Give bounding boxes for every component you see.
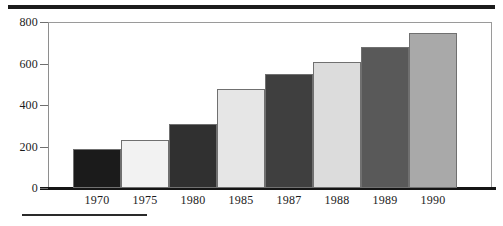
x-axis-tick-label: 1989 <box>361 194 409 206</box>
x-axis-tick-label: 1990 <box>409 194 457 206</box>
y-axis-tick <box>40 147 48 148</box>
bottom-divider-rule <box>22 214 147 216</box>
y-axis-tick <box>40 188 48 189</box>
x-axis-tick-label: 1985 <box>217 194 265 206</box>
x-axis-tick-label: 1980 <box>169 194 217 206</box>
x-axis-tick-label: 1988 <box>313 194 361 206</box>
y-axis-tick-label: 200 <box>0 141 38 153</box>
bar-1985 <box>217 89 265 188</box>
bar-1990 <box>409 33 457 188</box>
y-axis-tick-label: 800 <box>0 16 38 28</box>
bar-1987 <box>265 74 313 188</box>
bar-1989 <box>361 47 409 188</box>
y-axis-tick-label: 400 <box>0 99 38 111</box>
x-axis-tick-label: 1970 <box>73 194 121 206</box>
chart-figure: 0200400600800 19701975198019851987198819… <box>0 0 503 226</box>
bar-1980 <box>169 124 217 188</box>
y-axis-tick-label: 0 <box>0 182 38 194</box>
x-axis-tick-label: 1987 <box>265 194 313 206</box>
y-axis-tick <box>40 64 48 65</box>
bar-1988 <box>313 62 361 188</box>
top-divider-rule <box>8 5 495 9</box>
y-axis-tick <box>40 22 48 23</box>
y-axis-tick-label: 600 <box>0 58 38 70</box>
x-axis-tick-label: 1975 <box>121 194 169 206</box>
bar-1975 <box>121 140 169 188</box>
y-axis-tick <box>40 105 48 106</box>
bar-1970 <box>73 149 121 188</box>
